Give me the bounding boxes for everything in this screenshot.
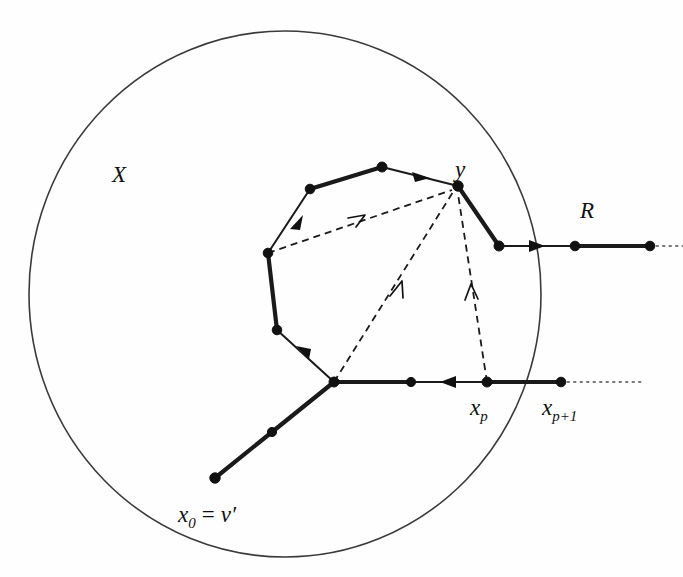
dot-b1 <box>406 377 415 386</box>
segment-n3-to-n4 <box>268 253 277 330</box>
x0-base: x <box>177 502 189 527</box>
dot-r3 <box>645 241 655 251</box>
path-diagram-svg: X y R x0=v′ xp xp+1 <box>0 0 683 577</box>
segment-n1-to-junction <box>272 382 334 432</box>
point-label-x0: x0=v′ <box>177 502 237 531</box>
segment-n5-to-n6 <box>310 167 382 189</box>
svg-text:x0=v′: x0=v′ <box>177 502 237 531</box>
point-label-xp: xp <box>469 395 488 424</box>
segment-x0-to-n1 <box>215 432 272 478</box>
ray-r-group <box>499 240 683 252</box>
dot-n1 <box>267 427 276 436</box>
dot-n5 <box>305 184 315 194</box>
x0-value: v′ <box>221 502 237 527</box>
x0-subscript: 0 <box>188 515 196 531</box>
svg-text:xp+1: xp+1 <box>541 395 577 424</box>
dot-r2 <box>570 241 580 251</box>
dot-n6 <box>377 162 387 172</box>
dot-x0 <box>210 473 220 483</box>
walk-path-group <box>215 167 499 478</box>
dot-n4 <box>263 248 273 258</box>
region-label-x: X <box>111 162 127 187</box>
point-label-xp1: xp+1 <box>541 395 577 424</box>
dot-n3 <box>272 325 282 335</box>
xp-base: x <box>469 395 481 420</box>
dot-r1 <box>494 241 504 251</box>
xp1-subscript: p+1 <box>551 408 577 424</box>
dot-xp <box>482 377 492 387</box>
segment-n4-to-n5 <box>268 189 310 253</box>
xp-subscript: p <box>479 408 488 424</box>
dot-xp1 <box>556 377 566 387</box>
arrowhead-n6-to-y <box>412 172 430 182</box>
arrowhead-lower-chain-leftward <box>440 376 456 388</box>
figure-root: X y R x0=v′ xp xp+1 <box>0 0 683 577</box>
region-boundary-ellipse <box>29 31 541 557</box>
dashed-line-junction-to-y <box>334 192 453 382</box>
dot-y <box>453 181 463 191</box>
ray-label-r: R <box>579 198 594 223</box>
x0-equals: = <box>202 502 215 527</box>
xp1-base: x <box>541 395 553 420</box>
arrowhead-dashed-xp-to-y <box>465 284 478 300</box>
svg-text:xp: xp <box>469 395 488 424</box>
point-label-y: y <box>453 157 466 182</box>
dot-junction <box>329 377 339 387</box>
arrowhead-junction-to-n3 <box>296 346 311 359</box>
segment-junction-to-n3 <box>277 330 334 382</box>
labels-group: X y R x0=v′ xp xp+1 <box>111 157 594 531</box>
